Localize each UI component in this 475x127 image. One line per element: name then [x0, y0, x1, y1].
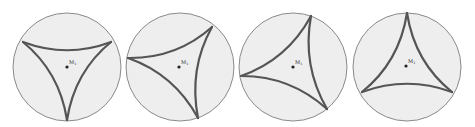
panel-3: M1 [239, 13, 347, 121]
center-point [177, 65, 180, 68]
center-point [404, 64, 407, 67]
hypocycloid-figure: M1M1M1M1 [0, 0, 475, 127]
panel-2: M1 [126, 13, 234, 121]
panel-1: M1 [13, 13, 121, 121]
center-point [65, 65, 68, 68]
center-point [291, 65, 294, 68]
panel-4: M1 [353, 13, 461, 121]
